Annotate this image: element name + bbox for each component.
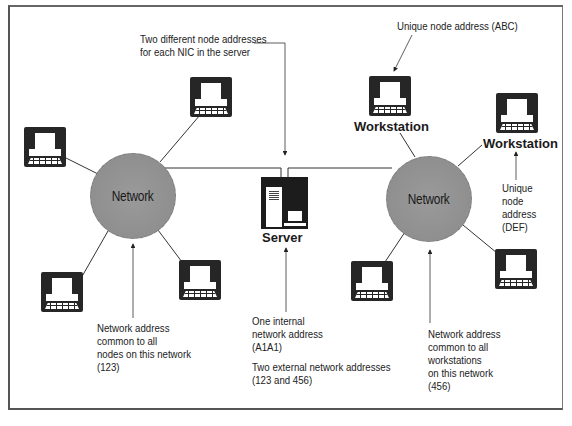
annotation-unique-def: Unique node address (DEF) [502,182,536,234]
server-icon [261,177,308,229]
annotation-nic-addresses: Two different node addresses for each NI… [140,33,267,59]
workstation-icon [24,127,66,167]
workstation-def-label: Workstation [483,136,558,151]
network-right: Network [386,156,472,242]
network-right-label: Network [408,191,450,207]
server-label: Server [262,230,302,245]
annotation-unique-abc: Unique node address (ABC) [397,20,518,33]
annotation-external-addresses: Two external network addresses (123 and … [252,361,391,387]
workstation-abc-label: Workstation [354,119,429,134]
annotation-internal-address: One internal network address (A1A1) [252,315,323,354]
annotation-left-network-address: Network address common to all nodes on t… [97,322,191,374]
network-left-label: Network [112,188,154,204]
network-left: Network [90,153,176,239]
workstation-icon [190,77,232,117]
workstation-icon [495,249,537,289]
workstation-icon [179,260,221,300]
workstation-icon [351,261,393,301]
workstation-abc-icon [369,76,411,116]
workstation-def-icon [496,93,538,133]
annotation-right-network-address: Network address common to all workstatio… [428,328,500,393]
workstation-icon [41,272,83,312]
